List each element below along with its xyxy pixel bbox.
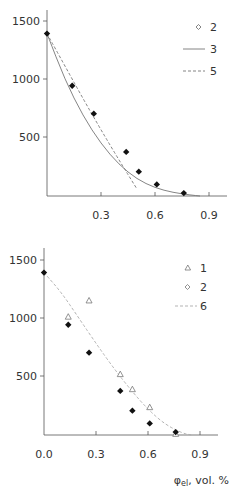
data-point-2: [44, 30, 50, 36]
data-point-2: [181, 190, 187, 196]
diamond-marker-icon: [196, 25, 201, 30]
data-point-2: [86, 349, 92, 355]
top-panel: 1500 1000 500 0.3 0.6 0.9 2 3 5: [12, 10, 227, 222]
series-line-3: [47, 34, 200, 196]
legend-label: 3: [210, 43, 217, 56]
legend-label: 6: [200, 300, 207, 313]
data-point-2: [123, 149, 129, 155]
x-axis-title: φel, vol. %: [174, 474, 229, 488]
bottom-panel: 1500 1000 500 0.0 0.3 0.6 0.9 φel, vol. …: [9, 248, 229, 488]
y-tick-label: 500: [16, 370, 37, 383]
legend-label: 2: [200, 281, 207, 294]
diamond-marker-icon: [185, 285, 190, 290]
data-point-2: [147, 420, 153, 426]
x-tick-label: 0.6: [146, 209, 164, 222]
x-tick-label: 0.3: [92, 209, 110, 222]
data-point-2: [65, 322, 71, 328]
bottom-x-axis: 0.0 0.3 0.6 0.9 φel, vol. %: [35, 431, 229, 488]
legend-label: 1: [200, 262, 207, 275]
top-legend: 2 3 5: [183, 21, 217, 78]
chart-canvas: 1500 1000 500 0.3 0.6 0.9 2 3 5: [0, 0, 237, 492]
series-line-5: [47, 34, 137, 189]
data-point-2: [136, 168, 142, 174]
bottom-legend: 1 2 6: [175, 262, 207, 313]
x-tick-label: 0.9: [200, 209, 218, 222]
top-x-axis: 0.3 0.6 0.9: [47, 192, 227, 222]
y-tick-label: 500: [19, 131, 40, 144]
top-plot-area: [44, 30, 200, 196]
data-point-2: [41, 269, 47, 275]
data-point-2: [91, 110, 97, 116]
data-point-1: [65, 314, 71, 320]
top-y-axis: 1500 1000 500: [12, 10, 47, 196]
data-point-2: [117, 388, 123, 394]
data-point-1: [86, 297, 92, 303]
triangle-marker-icon: [185, 265, 191, 270]
data-point-1: [147, 404, 153, 410]
data-point-2: [154, 181, 160, 187]
y-tick-label: 1500: [12, 15, 40, 28]
x-tick-label: 0.6: [139, 448, 157, 461]
y-tick-label: 1000: [9, 312, 37, 325]
x-tick-label: 0.3: [87, 448, 105, 461]
data-point-2: [129, 407, 135, 413]
data-point-1: [129, 386, 135, 392]
legend-label: 2: [210, 21, 217, 34]
y-tick-label: 1000: [12, 73, 40, 86]
bottom-plot-area: [41, 269, 192, 436]
bottom-y-axis: 1500 1000 500: [9, 248, 44, 435]
legend-label: 5: [210, 65, 217, 78]
x-tick-label: 0.9: [191, 448, 209, 461]
x-tick-label: 0.0: [35, 448, 53, 461]
y-tick-label: 1500: [9, 254, 37, 267]
series-line-6: [44, 273, 191, 435]
chart-figure: 1500 1000 500 0.3 0.6 0.9 2 3 5: [0, 0, 237, 492]
